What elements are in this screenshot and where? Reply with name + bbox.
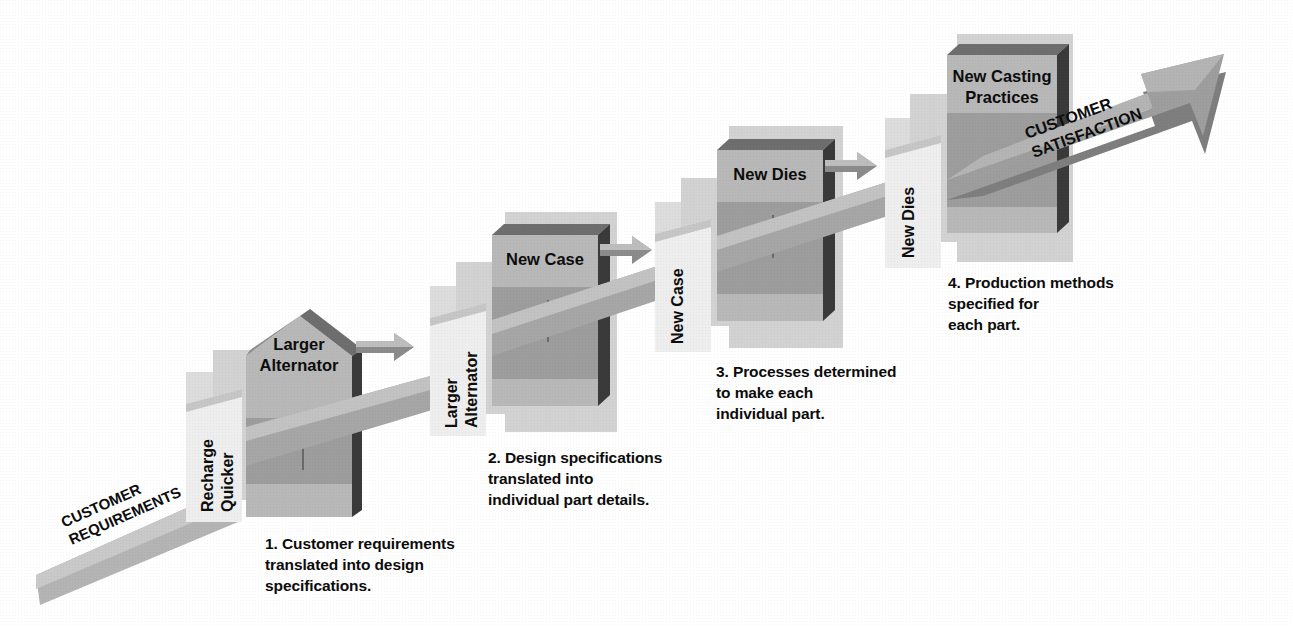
stage-4-caption: 4. Production methods specified for each… — [948, 272, 1198, 335]
diagram-canvas: CUSTOMER REQUIREMENTS CUSTOMER SATISFACT… — [0, 0, 1293, 627]
stage-1-caption: 1. Customer requirements translated into… — [265, 533, 535, 596]
stage-3-caption: 3. Processes determined to make each ind… — [716, 361, 966, 424]
stage-2-caption: 2. Design specifications translated into… — [488, 447, 748, 510]
